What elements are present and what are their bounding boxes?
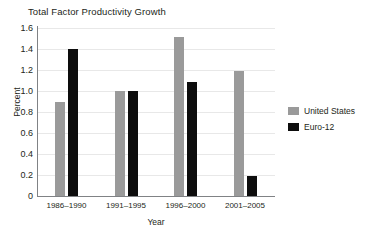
chart-legend: United StatesEuro-12: [288, 103, 355, 135]
bar: [174, 37, 184, 196]
y-axis-tick-label: 1.4: [1, 44, 33, 54]
bar: [68, 49, 78, 196]
bar: [234, 71, 244, 196]
chart-title: Total Factor Productivity Growth: [28, 6, 166, 17]
bar: [247, 176, 257, 196]
y-axis-tick-label: 0.2: [1, 170, 33, 180]
y-axis-line: [37, 26, 38, 196]
y-axis-tick-label: 0.6: [1, 128, 33, 138]
y-axis-tick-label: 1.0: [1, 86, 33, 96]
x-axis-tick-label: 2001–2005: [200, 201, 290, 210]
y-axis-tick-labels: 00.20.40.60.81.01.21.41.6: [0, 28, 33, 196]
y-axis-tick-label: 0.8: [1, 107, 33, 117]
legend-swatch-icon: [288, 123, 299, 131]
gridline: [38, 28, 275, 29]
y-axis-tick-label: 1.6: [1, 23, 33, 33]
legend-label: United States: [304, 106, 355, 116]
bar: [187, 82, 197, 196]
chart-figure: Total Factor Productivity Growth Percent…: [0, 0, 376, 237]
bar: [55, 102, 65, 197]
y-axis-tick-label: 0: [1, 191, 33, 201]
plot-area: [37, 28, 275, 196]
legend-item: United States: [288, 103, 355, 119]
y-axis-tick-label: 1.2: [1, 65, 33, 75]
bar: [115, 91, 125, 196]
legend-swatch-icon: [288, 107, 299, 115]
y-axis-tick-label: 0.4: [1, 149, 33, 159]
legend-item: Euro-12: [288, 119, 355, 135]
bar: [128, 91, 138, 196]
x-axis-title: Year: [37, 217, 275, 227]
legend-label: Euro-12: [304, 122, 334, 132]
